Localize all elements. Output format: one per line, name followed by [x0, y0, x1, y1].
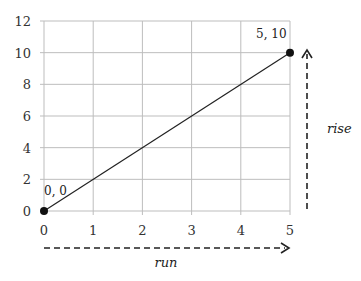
y-axis-ticks: 024681012 — [14, 14, 31, 219]
y-tick-label: 12 — [14, 14, 31, 29]
data-line — [44, 53, 290, 211]
y-tick-label: 8 — [23, 77, 31, 92]
data-point — [40, 207, 48, 215]
x-tick-label: 0 — [40, 223, 48, 238]
slope-chart: 024681012 012345 run rise 0, 0 5, 10 — [0, 0, 361, 281]
x-tick-label: 1 — [89, 223, 97, 238]
x-tick-label: 3 — [187, 223, 195, 238]
rise-label: rise — [327, 121, 352, 136]
y-tick-label: 2 — [23, 172, 31, 187]
x-axis-ticks: 012345 — [40, 223, 294, 238]
x-tick-label: 2 — [138, 223, 146, 238]
y-tick-label: 4 — [23, 141, 31, 156]
y-tick-label: 0 — [23, 204, 31, 219]
x-tick-label: 4 — [237, 223, 245, 238]
origin-point-label: 0, 0 — [44, 184, 67, 198]
end-point-label: 5, 10 — [256, 27, 287, 41]
y-tick-label: 6 — [23, 109, 31, 124]
run-label: run — [155, 255, 178, 270]
grid-lines — [40, 21, 290, 215]
x-tick-label: 5 — [286, 223, 294, 238]
y-tick-label: 10 — [14, 46, 31, 61]
data-point — [286, 49, 294, 57]
